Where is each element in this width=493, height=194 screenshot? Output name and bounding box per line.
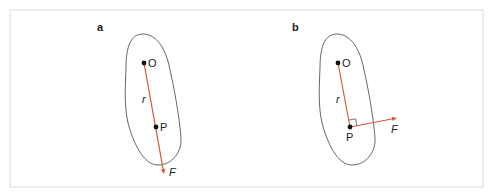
- application-point-p: [154, 125, 159, 130]
- label-p: P: [160, 121, 167, 133]
- label-p: P: [346, 131, 353, 143]
- panel-label-a: a: [97, 21, 104, 33]
- torque-diagram: a O P r F b O P r F: [0, 0, 493, 194]
- application-point-p: [348, 125, 353, 130]
- pivot-point-o: [336, 61, 341, 66]
- label-o: O: [342, 57, 351, 69]
- label-o: O: [148, 57, 157, 69]
- pivot-point-o: [142, 61, 147, 66]
- figure-frame: [10, 10, 483, 187]
- panel-label-b: b: [292, 21, 299, 33]
